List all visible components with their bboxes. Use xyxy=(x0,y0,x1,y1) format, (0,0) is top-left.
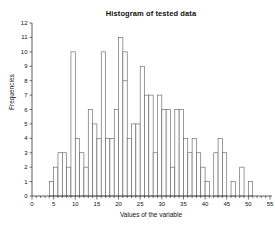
histogram-bar xyxy=(123,52,127,196)
histogram-bar xyxy=(231,182,235,196)
histogram-bar xyxy=(101,52,105,196)
histogram-bar xyxy=(170,167,174,196)
histogram-bar xyxy=(71,52,75,196)
histogram-bar xyxy=(140,66,144,196)
histogram-bar xyxy=(157,95,161,196)
histogram-bar xyxy=(201,167,205,196)
x-tick-label: 40 xyxy=(202,201,209,207)
y-tick-label: 2 xyxy=(24,164,28,170)
x-tick-label: 55 xyxy=(267,201,274,207)
histogram-bar xyxy=(80,153,84,196)
x-axis-title: Values of the variable xyxy=(32,211,270,218)
histogram-bar xyxy=(205,182,209,196)
histogram-bar xyxy=(127,138,131,196)
histogram-bar xyxy=(183,138,187,196)
chart-canvas: Histogram of tested data Frequencies 051… xyxy=(0,0,275,232)
histogram-bar xyxy=(58,153,62,196)
histogram-bar xyxy=(162,110,166,197)
histogram-plot: 05101520253035404550550123456789101112 xyxy=(0,0,275,232)
histogram-bar xyxy=(119,37,123,196)
histogram-bar xyxy=(145,95,149,196)
x-tick-label: 15 xyxy=(94,201,101,207)
histogram-bar xyxy=(93,124,97,196)
x-tick-label: 10 xyxy=(72,201,79,207)
histogram-bar xyxy=(240,167,244,196)
x-tick-label: 5 xyxy=(52,201,56,207)
histogram-bar xyxy=(110,138,114,196)
histogram-bar xyxy=(222,153,226,196)
y-tick-label: 6 xyxy=(24,107,28,113)
histogram-bar xyxy=(106,138,110,196)
y-tick-label: 11 xyxy=(21,34,28,40)
x-tick-label: 45 xyxy=(223,201,230,207)
x-tick-label: 20 xyxy=(115,201,122,207)
histogram-bar xyxy=(97,138,101,196)
y-tick-label: 12 xyxy=(21,20,28,26)
histogram-bar xyxy=(75,138,79,196)
histogram-bar xyxy=(248,182,252,196)
histogram-bar xyxy=(192,138,196,196)
histogram-bar xyxy=(49,182,53,196)
histogram-bar xyxy=(67,167,71,196)
histogram-bar xyxy=(179,110,183,197)
histogram-bar xyxy=(175,110,179,197)
y-tick-label: 4 xyxy=(24,135,28,141)
histogram-bar xyxy=(114,110,118,197)
y-tick-label: 3 xyxy=(24,150,28,156)
histogram-bar xyxy=(149,95,153,196)
histogram-bar xyxy=(84,167,88,196)
x-tick-label: 25 xyxy=(137,201,144,207)
histogram-bar xyxy=(136,124,140,196)
histogram-bar xyxy=(214,153,218,196)
y-tick-label: 9 xyxy=(24,63,28,69)
y-tick-label: 10 xyxy=(21,49,28,55)
histogram-bar xyxy=(196,153,200,196)
y-tick-label: 8 xyxy=(24,78,28,84)
x-tick-label: 35 xyxy=(180,201,187,207)
histogram-bar xyxy=(153,153,157,196)
histogram-bar xyxy=(62,153,66,196)
histogram-bar xyxy=(218,138,222,196)
x-tick-label: 0 xyxy=(30,201,34,207)
x-tick-label: 30 xyxy=(158,201,165,207)
histogram-bar xyxy=(188,153,192,196)
y-tick-label: 5 xyxy=(24,121,28,127)
x-tick-label: 50 xyxy=(245,201,252,207)
y-tick-label: 1 xyxy=(24,179,28,185)
histogram-bar xyxy=(166,110,170,197)
y-tick-label: 7 xyxy=(24,92,28,98)
histogram-bar xyxy=(132,124,136,196)
y-tick-label: 0 xyxy=(24,193,28,199)
histogram-bar xyxy=(88,110,92,197)
histogram-bar xyxy=(54,167,58,196)
